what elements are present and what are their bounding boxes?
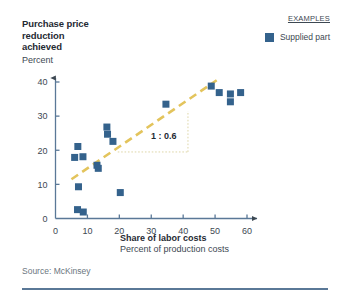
trendline (71, 80, 216, 179)
data-point-marker (104, 131, 111, 138)
chart-figure: Purchase price reduction achieved Percen… (0, 0, 343, 294)
x-tick-label: 10 (82, 226, 92, 236)
y-tick-label: 0 (42, 214, 47, 224)
data-point-marker (237, 89, 244, 96)
data-point-marker (227, 90, 234, 97)
data-point-marker (162, 101, 169, 108)
y-tick-label: 20 (37, 146, 47, 156)
data-point-marker (75, 183, 82, 190)
chart-title-block: Purchase price reduction achieved Percen… (22, 18, 182, 66)
y-tick-label: 10 (37, 180, 47, 190)
data-point-marker (93, 162, 100, 169)
page-title-line-3: achieved (22, 41, 182, 53)
legend-item-supplied-part: Supplied part (265, 32, 330, 42)
chart-legend: EXAMPLES Supplied part (265, 14, 330, 42)
x-axis-title: Share of labor costs (120, 233, 320, 243)
slope-ratio-annotation: 1 : 0.6 (151, 131, 177, 141)
tick-label-layer: 0102030400102030405060 (37, 77, 252, 235)
data-point-marker (227, 98, 234, 105)
source-note: Source: McKinsey (22, 266, 91, 276)
data-point-marker (117, 189, 124, 196)
y-tick-label: 30 (37, 111, 47, 121)
data-point-marker (74, 206, 81, 213)
page-title-line-2: reduction (22, 30, 182, 42)
page-title-line-1: Purchase price (22, 18, 182, 30)
data-point-marker (95, 165, 102, 172)
footer-divider (22, 288, 328, 290)
x-axis-subtitle: Percent of production costs (120, 244, 330, 254)
data-point-marker (216, 89, 223, 96)
legend-header: EXAMPLES (265, 14, 330, 23)
data-point-marker (74, 143, 81, 150)
data-points-layer (71, 83, 244, 216)
trendline-layer (71, 80, 216, 179)
data-point-marker (71, 154, 78, 161)
legend-swatch-icon (265, 33, 274, 42)
x-tick-label: 0 (53, 226, 58, 236)
data-point-marker (103, 124, 110, 131)
axis-layer (56, 78, 258, 219)
data-point-marker (79, 153, 86, 160)
y-tick-label: 40 (37, 77, 47, 87)
legend-item-label: Supplied part (280, 32, 330, 42)
data-point-marker (208, 83, 215, 90)
data-point-marker (80, 209, 87, 216)
y-axis-unit-label: Percent (22, 54, 182, 66)
data-point-marker (109, 138, 116, 145)
